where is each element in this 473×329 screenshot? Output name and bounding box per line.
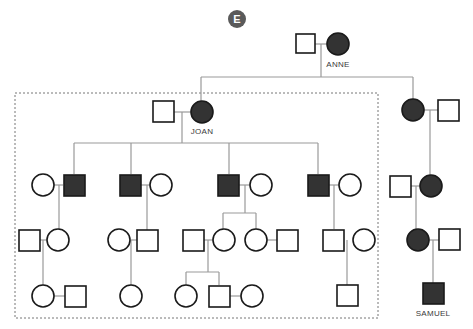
relationship-lines (38, 44, 439, 296)
female-unaffected (241, 285, 263, 307)
male-unaffected (19, 230, 40, 251)
joan-female-affected (191, 101, 213, 123)
male-unaffected (439, 229, 460, 250)
female-affected (407, 229, 429, 251)
male-affected (218, 175, 239, 196)
joan-label: JOAN (191, 127, 214, 136)
female-unaffected (245, 229, 267, 251)
female-affected (420, 175, 442, 197)
male-unaffected (209, 286, 230, 307)
male-unaffected (183, 230, 204, 251)
male-unaffected (390, 176, 411, 197)
male-unaffected (296, 34, 315, 53)
female-unaffected (32, 174, 54, 196)
badge-letter: E (233, 13, 240, 25)
female-unaffected (250, 174, 272, 196)
samuel-label: SAMUEL (416, 309, 451, 318)
anne-label: ANNE (326, 60, 349, 69)
female-unaffected (47, 229, 69, 251)
pedigree-diagram: E (0, 0, 473, 329)
male-unaffected (137, 230, 158, 251)
male-unaffected (337, 285, 358, 306)
female-affected (402, 99, 424, 121)
male-unaffected (438, 100, 459, 121)
female-unaffected (339, 174, 361, 196)
male-affected (308, 175, 329, 196)
samuel-male-affected (423, 283, 444, 304)
male-unaffected (277, 230, 298, 251)
panel-badge: E (228, 10, 246, 28)
male-affected (64, 175, 85, 196)
joan-husband-male-unaffected (153, 101, 174, 122)
female-unaffected (353, 229, 375, 251)
anne-female-affected (327, 33, 349, 55)
male-unaffected (323, 230, 344, 251)
male-affected (120, 175, 141, 196)
female-unaffected (108, 229, 130, 251)
female-unaffected (150, 174, 172, 196)
female-unaffected (32, 285, 54, 307)
female-unaffected (175, 285, 197, 307)
female-unaffected (213, 229, 235, 251)
male-unaffected (65, 286, 86, 307)
female-unaffected (120, 285, 142, 307)
